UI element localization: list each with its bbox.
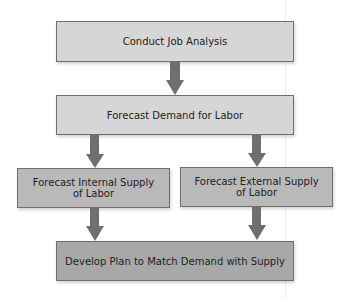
arrow-down-icon bbox=[247, 134, 267, 167]
node-forecast-demand: Forecast Demand for Labor bbox=[56, 95, 294, 135]
node-conduct-job-analysis: Conduct Job Analysis bbox=[56, 21, 294, 62]
node-label-line2: of Labor bbox=[236, 187, 277, 198]
node-develop-plan: Develop Plan to Match Demand with Supply bbox=[56, 241, 294, 281]
node-label-line2: of Labor bbox=[73, 188, 114, 199]
node-label-line1: Forecast External Supply bbox=[194, 176, 318, 187]
node-label: Forecast Demand for Labor bbox=[107, 110, 243, 121]
arrow-down-icon bbox=[85, 208, 105, 241]
node-label-line1: Forecast Internal Supply bbox=[33, 177, 154, 188]
node-label: Develop Plan to Match Demand with Supply bbox=[65, 256, 285, 267]
arrow-down-icon bbox=[85, 134, 105, 168]
node-label: Conduct Job Analysis bbox=[123, 36, 228, 47]
node-forecast-internal-supply: Forecast Internal Supply of Labor bbox=[17, 168, 170, 208]
arrow-down-icon bbox=[165, 61, 185, 95]
arrow-down-icon bbox=[247, 207, 267, 240]
node-forecast-external-supply: Forecast External Supply of Labor bbox=[180, 167, 333, 207]
